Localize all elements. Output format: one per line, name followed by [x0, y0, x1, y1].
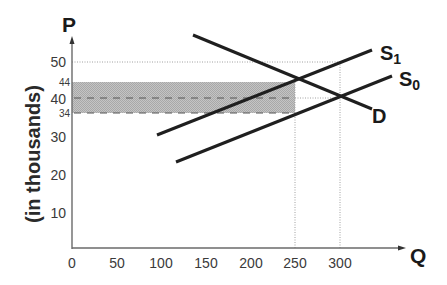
- y-axis-unit-note: (in thousands): [22, 85, 44, 223]
- y-annotation-44: 44: [59, 77, 71, 88]
- curve-label-s0: S0: [399, 68, 420, 93]
- x-tick-250: 250: [283, 255, 307, 271]
- y-tick-20: 20: [50, 167, 66, 183]
- x-tick-150: 150: [194, 255, 218, 271]
- x-axis-label: Q: [410, 244, 426, 267]
- x-tick-50: 50: [109, 255, 125, 271]
- x-tick-300: 300: [328, 255, 352, 271]
- y-tick-40: 40: [50, 91, 66, 107]
- x-axis-arrow-icon: [398, 246, 406, 251]
- x-tick-200: 200: [239, 255, 263, 271]
- y-tick-10: 10: [50, 205, 66, 221]
- x-tick-0: 0: [68, 255, 76, 271]
- y-annotation-34: 34: [59, 108, 71, 119]
- curve-label-s1: S1: [380, 42, 401, 67]
- y-tick-30: 30: [50, 129, 66, 145]
- y-tick-50: 50: [50, 54, 66, 70]
- y-axis-arrow-icon: [70, 36, 75, 44]
- supply-demand-chart: P Q (in thousands) 50 40 30 20 10 44 34 …: [0, 0, 447, 285]
- x-tick-100: 100: [149, 255, 173, 271]
- y-axis-label: P: [62, 13, 76, 36]
- curve-label-d: D: [372, 105, 386, 127]
